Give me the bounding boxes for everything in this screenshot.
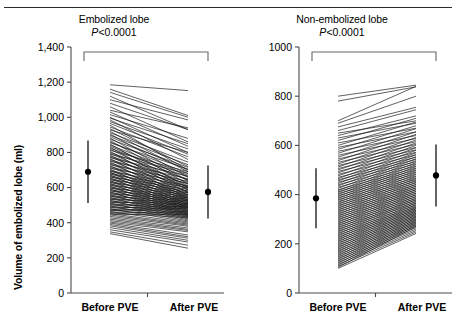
mean-marker bbox=[205, 189, 211, 195]
y-tick-label: 0 bbox=[58, 287, 64, 299]
x-axis-labels: Before PVEAfter PVE bbox=[81, 301, 218, 313]
trajectory-line bbox=[338, 86, 416, 120]
plot-area-embolized: 02004006008001,0001,2001,400Before PVEAf… bbox=[0, 0, 228, 336]
patient-trajectory-lines bbox=[338, 85, 416, 268]
significance-bracket bbox=[312, 52, 436, 61]
plot-area-non-embolized: 02004006008001000Before PVEAfter PVE bbox=[228, 0, 456, 336]
y-tick-label: 0 bbox=[286, 287, 292, 299]
y-tick-label: 1,000 bbox=[38, 111, 64, 123]
x-tick-label: Before PVE bbox=[309, 301, 366, 313]
y-tick-label: 200 bbox=[274, 238, 292, 250]
trajectory-line bbox=[338, 87, 416, 101]
panel-embolized-lobe: Embolized lobe P<0.0001 Volume of emboli… bbox=[0, 0, 228, 336]
y-tick-label: 400 bbox=[274, 188, 292, 200]
patient-trajectory-lines bbox=[110, 85, 188, 248]
y-axis-ticks: 02004006008001000 bbox=[269, 41, 299, 299]
mean-marker bbox=[433, 172, 439, 178]
trajectory-line bbox=[338, 110, 416, 131]
trajectory-line bbox=[110, 92, 188, 117]
trajectory-line bbox=[110, 85, 188, 91]
y-tick-label: 1,200 bbox=[38, 76, 64, 88]
y-tick-label: 600 bbox=[274, 139, 292, 151]
y-tick-label: 1000 bbox=[269, 41, 293, 53]
mean-marker bbox=[85, 169, 91, 175]
x-tick-label: Before PVE bbox=[81, 301, 138, 313]
trajectory-line bbox=[338, 107, 416, 127]
x-tick-label: After PVE bbox=[170, 301, 218, 313]
figure-container: Embolized lobe P<0.0001 Volume of emboli… bbox=[0, 0, 456, 336]
mean-marker bbox=[313, 195, 319, 201]
trajectory-line bbox=[110, 89, 188, 115]
trajectory-line bbox=[338, 121, 416, 133]
y-tick-label: 800 bbox=[46, 146, 64, 158]
y-tick-label: 200 bbox=[46, 252, 64, 264]
y-tick-label: 600 bbox=[46, 181, 64, 193]
trajectory-line bbox=[338, 85, 416, 96]
panel-non-embolized-lobe: Non-embolized lobe P<0.0001 Volume of no… bbox=[228, 0, 456, 336]
x-tick-label: After PVE bbox=[398, 301, 446, 313]
y-axis-ticks: 02004006008001,0001,2001,400 bbox=[38, 41, 71, 299]
y-tick-label: 400 bbox=[46, 217, 64, 229]
y-tick-label: 800 bbox=[274, 90, 292, 102]
y-tick-label: 1,400 bbox=[38, 41, 64, 53]
trajectory-line bbox=[338, 132, 416, 147]
significance-bracket bbox=[84, 52, 208, 61]
x-axis-labels: Before PVEAfter PVE bbox=[309, 301, 446, 313]
